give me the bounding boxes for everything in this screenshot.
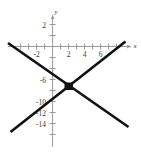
chart-figure: -2 2 4 6 x 2 -6 -10 -12 -14 y bbox=[0, 0, 141, 153]
intersection-point bbox=[65, 83, 74, 91]
x-tick-label: 2 bbox=[67, 50, 71, 59]
chart-background bbox=[0, 0, 141, 153]
y-tick-label: -14 bbox=[36, 120, 46, 129]
x-tick-label: 6 bbox=[99, 50, 103, 59]
x-tick-label: 4 bbox=[83, 50, 87, 59]
intersection-point-marker bbox=[65, 83, 74, 91]
y-tick-label: 2 bbox=[42, 21, 46, 30]
coordinate-plane-graph: -2 2 4 6 x 2 -6 -10 -12 -14 y bbox=[0, 0, 141, 153]
x-tick-label: -2 bbox=[33, 50, 39, 59]
y-tick-label: -6 bbox=[40, 76, 46, 85]
